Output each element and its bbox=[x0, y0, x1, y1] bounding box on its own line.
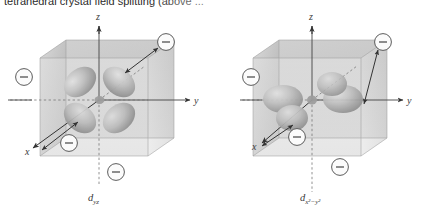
x-axis-label: x bbox=[251, 141, 257, 152]
y-axis-label: y bbox=[193, 95, 199, 106]
orbital-label-right-sub: x²−y² bbox=[305, 198, 320, 206]
ligand-top-right bbox=[158, 34, 175, 51]
y-axis-label: y bbox=[406, 95, 412, 106]
cube-face-right bbox=[148, 40, 174, 156]
ligand-front-center bbox=[289, 129, 306, 146]
ligand-top-right bbox=[375, 34, 392, 51]
lobe-plus-x bbox=[276, 105, 308, 131]
orbital-label-left: dyz bbox=[88, 192, 99, 206]
lobe-minus-x bbox=[317, 72, 347, 96]
ligand-left bbox=[16, 69, 33, 86]
orbital-label-right: dx²−y² bbox=[300, 192, 320, 206]
orbital-center bbox=[95, 96, 105, 104]
orbital-center bbox=[307, 96, 317, 105]
ligand-bottom bbox=[108, 164, 125, 181]
cube-left bbox=[40, 40, 174, 156]
ligand-bottom bbox=[332, 159, 349, 176]
orbital-label-right-exp: ²−y² bbox=[308, 198, 320, 206]
z-axis-label: z bbox=[95, 11, 100, 22]
ligand-front-center bbox=[61, 135, 78, 152]
orbital-label-right-y: y bbox=[315, 198, 318, 206]
orbital-figure: z y x bbox=[0, 0, 425, 215]
ligand-left bbox=[243, 69, 260, 86]
diagram-left: z y x bbox=[8, 11, 199, 185]
diagram-right: z y x bbox=[240, 11, 412, 192]
z-axis-label: z bbox=[308, 11, 313, 22]
orbital-label-left-sub: yz bbox=[93, 198, 99, 206]
x-axis-label: x bbox=[24, 146, 30, 157]
cube-face-right bbox=[361, 40, 387, 156]
